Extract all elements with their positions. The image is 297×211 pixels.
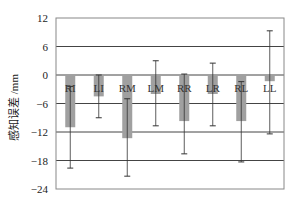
y-tick-label: 6	[43, 41, 49, 53]
category-labels: RILIRMLMRRLRRLLL	[65, 82, 277, 94]
category-label: RR	[177, 82, 192, 94]
gridlines	[56, 47, 284, 161]
category-label: LR	[206, 82, 221, 94]
category-label: LM	[148, 82, 165, 94]
category-label: RL	[234, 82, 248, 94]
y-axis-ticks: 1260−6−12−18−24	[31, 12, 49, 195]
y-tick-label: −12	[31, 126, 48, 138]
y-tick-label: 0	[43, 69, 49, 81]
y-tick-label: −24	[31, 183, 49, 195]
category-label: RI	[65, 82, 76, 94]
y-tick-label: −18	[31, 155, 49, 167]
y-axis-label: 感知误差 /mm	[7, 74, 20, 141]
y-tick-label: 12	[37, 12, 48, 24]
bar-chart: RILIRMLMRRLRRLLL 1260−6−12−18−24 感知误差 /m…	[0, 0, 297, 211]
y-tick-label: −6	[36, 98, 48, 110]
category-label: LL	[263, 82, 277, 94]
category-label: RM	[119, 82, 136, 94]
category-label: LI	[94, 82, 105, 94]
